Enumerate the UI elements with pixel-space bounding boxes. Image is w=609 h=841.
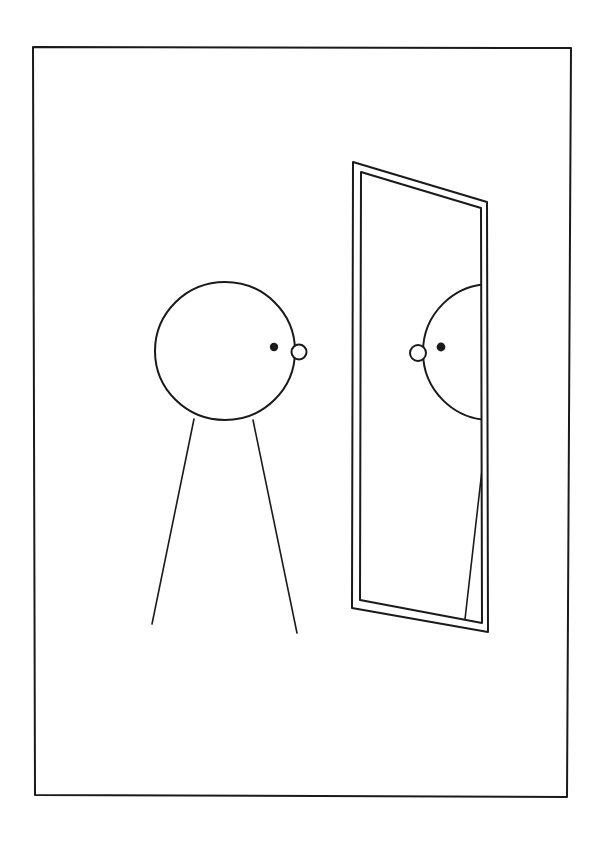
paper-background xyxy=(0,0,609,841)
reflected-eye-dot xyxy=(437,343,446,352)
line-drawing xyxy=(0,0,609,841)
drawing-canvas xyxy=(0,0,609,841)
nose-circle xyxy=(292,345,307,360)
mirror-glass xyxy=(360,172,482,623)
reflected-nose-circle xyxy=(410,345,426,361)
eye-dot xyxy=(270,343,278,351)
